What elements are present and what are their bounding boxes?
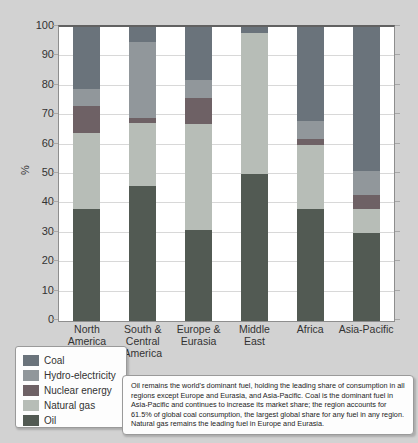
y-tick-mark-20 [53,260,58,261]
bar-segment-hydro-electricity [185,80,212,98]
energy-consumption-chart-panel: % 0102030405060708090100 North AmericaSo… [0,0,418,443]
caption-box: Oil remains the world's dominant fuel, h… [122,375,414,435]
gridline-60 [59,144,394,145]
y-tick-label-30: 30 [16,225,54,237]
caption-text: Oil remains the world's dominant fuel, h… [131,381,405,429]
legend-swatch-hydro-electricity [23,370,39,381]
bar-segment-natural-gas [241,33,268,174]
y-tick-label-20: 20 [16,254,54,266]
bar-segment-coal [241,27,268,33]
bar-segment-natural-gas [353,209,380,233]
y-tick-mark-80 [53,84,58,85]
bar-segment-hydro-electricity [297,121,324,139]
y-tick-mark-right-100 [395,25,400,26]
bar-segment-natural-gas [297,145,324,210]
gridline-50 [59,173,394,174]
gridline-80 [59,85,394,86]
plot-area [58,25,395,322]
x-axis-label-asia-pacific: Asia-Pacific [332,323,400,335]
bar-europe-eurasia [185,27,212,321]
bar-segment-nuclear-energy [353,195,380,210]
y-tick-label-60: 60 [16,137,54,149]
y-tick-mark-right-30 [395,231,400,232]
y-tick-mark-right-20 [395,260,400,261]
y-tick-mark-right-90 [395,54,400,55]
bar-segment-natural-gas [129,123,156,186]
legend-item-hydro-electricity: Hydro-electricity [23,368,126,383]
y-tick-mark-30 [53,231,58,232]
y-tick-mark-60 [53,143,58,144]
y-tick-mark-40 [53,201,58,202]
bar-segment-hydro-electricity [353,171,380,195]
legend-swatch-natural-gas [23,400,39,411]
bar-middle-east [241,27,268,321]
bar-segment-hydro-electricity [73,89,100,107]
y-tick-label-40: 40 [16,195,54,207]
gridline-90 [59,55,394,56]
bar-segment-oil [129,186,156,321]
legend-label-hydro-electricity: Hydro-electricity [44,370,116,381]
y-tick-mark-90 [53,54,58,55]
bar-segment-oil [241,174,268,321]
bar-segment-nuclear-energy [129,118,156,122]
y-tick-mark-right-80 [395,84,400,85]
legend: CoalHydro-electricityNuclear energyNatur… [15,346,127,428]
bar-segment-nuclear-energy [73,106,100,132]
y-tick-mark-right-0 [395,319,400,320]
bar-segment-oil [297,209,324,321]
bar-asia-pacific [353,27,380,321]
y-tick-mark-70 [53,113,58,114]
gridline-20 [59,261,394,262]
bar-segment-coal [129,27,156,42]
bar-north-america [73,27,100,321]
bar-segment-coal [297,27,324,121]
gridline-10 [59,291,394,292]
bar-segment-natural-gas [185,124,212,230]
legend-label-coal: Coal [44,355,65,366]
y-tick-label-10: 10 [16,284,54,296]
gridline-40 [59,202,394,203]
bar-segment-oil [353,233,380,321]
legend-swatch-oil [23,415,39,426]
bar-segment-hydro-electricity [129,42,156,118]
y-tick-mark-10 [53,290,58,291]
legend-item-coal: Coal [23,353,126,368]
legend-swatch-coal [23,355,39,366]
y-tick-mark-50 [53,172,58,173]
bar-segment-nuclear-energy [297,139,324,145]
y-tick-label-80: 80 [16,78,54,90]
y-tick-label-90: 90 [16,48,54,60]
y-tick-label-50: 50 [16,166,54,178]
y-tick-mark-100 [53,25,58,26]
gridline-70 [59,114,394,115]
legend-label-oil: Oil [44,415,56,426]
y-tick-mark-right-70 [395,113,400,114]
bar-segment-oil [185,230,212,321]
bar-segment-natural-gas [73,133,100,209]
y-tick-mark-right-40 [395,201,400,202]
bar-segment-coal [185,27,212,80]
bar-segment-nuclear-energy [185,98,212,124]
bar-segment-coal [353,27,380,171]
y-tick-mark-right-50 [395,172,400,173]
legend-item-natural-gas: Natural gas [23,398,126,413]
bar-south-central-america [129,27,156,321]
y-tick-label-70: 70 [16,107,54,119]
bar-segment-coal [73,27,100,89]
legend-label-natural-gas: Natural gas [44,400,95,411]
legend-swatch-nuclear-energy [23,385,39,396]
gridline-30 [59,232,394,233]
legend-item-nuclear-energy: Nuclear energy [23,383,126,398]
y-tick-mark-right-10 [395,290,400,291]
bar-africa [297,27,324,321]
y-tick-mark-0 [53,319,58,320]
legend-item-oil: Oil [23,413,126,428]
legend-label-nuclear-energy: Nuclear energy [44,385,112,396]
y-tick-mark-right-60 [395,143,400,144]
y-tick-label-100: 100 [16,19,54,31]
bar-segment-oil [73,209,100,321]
y-tick-label-0: 0 [16,313,54,325]
